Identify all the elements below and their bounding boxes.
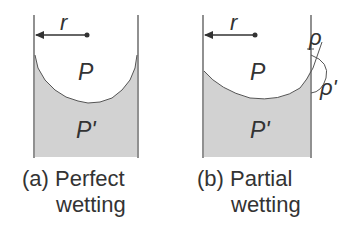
arrow-head-icon	[204, 31, 213, 39]
upper-pressure-label-b: P	[250, 59, 265, 85]
contact-label-rho: ρ	[309, 25, 322, 51]
radius-label-b: r	[230, 10, 237, 36]
center-dot	[85, 33, 90, 38]
caption-b-line2: wetting	[231, 192, 301, 218]
arrow-head-icon	[35, 31, 44, 39]
lower-pressure-label-a: P'	[76, 117, 96, 143]
contact-label-rho-prime: ρ'	[320, 75, 337, 101]
lower-pressure-label-b: P'	[250, 117, 270, 143]
caption-a-line2: wetting	[56, 192, 126, 218]
radius-label-a: r	[60, 10, 67, 36]
caption-a-line1: (a) Perfect	[22, 166, 125, 192]
center-dot	[253, 33, 258, 38]
caption-b-line1: (b) Partial	[197, 166, 292, 192]
upper-pressure-label-a: P	[78, 59, 93, 85]
